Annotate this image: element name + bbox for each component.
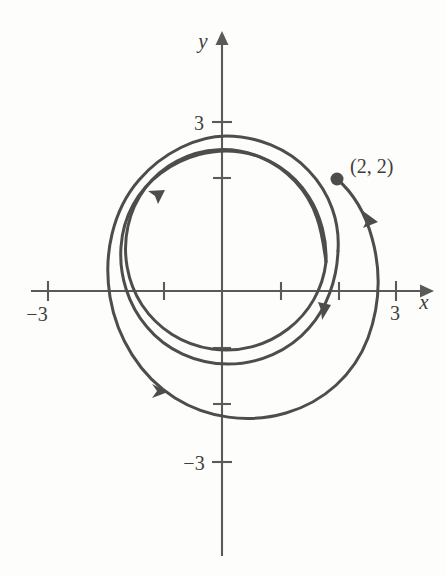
trajectory-group xyxy=(108,136,378,418)
y-tick-label-3: 3 xyxy=(194,112,204,134)
labels-group: y x −3 3 3 −3 (2, 2) xyxy=(26,29,429,474)
trajectory-inner-spiral xyxy=(121,151,338,364)
flow-arrow-top-left xyxy=(148,190,165,204)
axes-group xyxy=(31,31,434,556)
x-tick-label-minus3: −3 xyxy=(26,303,47,325)
x-axis-label: x xyxy=(418,290,429,314)
phase-plane-figure: y x −3 3 3 −3 (2, 2) xyxy=(0,0,445,576)
phase-portrait-svg: y x −3 3 3 −3 (2, 2) xyxy=(0,0,445,576)
initial-condition-dot[interactable] xyxy=(331,173,344,186)
y-tick-label-minus3: −3 xyxy=(183,452,204,474)
y-axis-arrowhead xyxy=(216,31,229,45)
start-point-label: (2, 2) xyxy=(350,155,393,178)
x-tick-label-3: 3 xyxy=(390,302,400,324)
y-axis-label: y xyxy=(196,29,208,53)
